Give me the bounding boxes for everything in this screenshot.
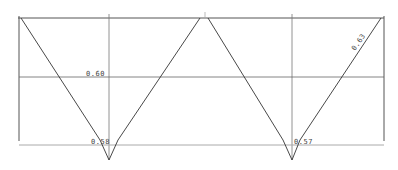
left-v-curve [21, 18, 200, 160]
label-left-bottom: 0.58 [91, 138, 110, 146]
diagram-canvas: 0.60 0.58 0.57 0.63 [0, 0, 398, 170]
label-right-bottom: 0.57 [294, 138, 313, 146]
label-left-mid: 0.60 [86, 70, 105, 78]
